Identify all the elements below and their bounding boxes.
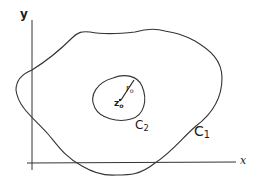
x-axis	[27, 162, 236, 163]
radius-label-subscript: o	[130, 87, 134, 94]
x-axis-label: x	[240, 155, 246, 166]
c1-label: C1	[194, 124, 210, 140]
c2-label: C2	[135, 119, 149, 132]
c1-label-subscript: 1	[204, 129, 210, 140]
c1-label-main: C	[194, 123, 204, 139]
center-label: zo	[114, 99, 124, 109]
diagram-canvas: y x C1 C2 zo ro	[0, 0, 260, 184]
c2-label-subscript: 2	[143, 123, 148, 133]
radius-label: ro	[126, 84, 134, 94]
y-axis-label: y	[20, 8, 28, 20]
center-label-subscript: o	[119, 102, 123, 109]
